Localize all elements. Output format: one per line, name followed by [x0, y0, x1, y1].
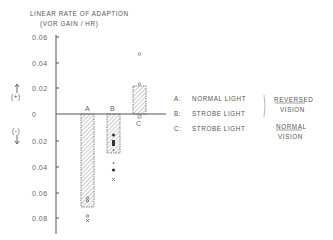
svg-text:0.08: 0.08	[32, 215, 48, 222]
legend-label-b: STROBE LIGHT	[192, 110, 245, 117]
svg-text:0.04: 0.04	[32, 164, 48, 171]
svg-text:0: 0	[32, 111, 36, 118]
group-reversed-line1: REVERSED	[274, 96, 313, 103]
legend-label-a: NORMAL LIGHT	[192, 95, 246, 102]
svg-text:C: C	[136, 120, 142, 127]
svg-text:B: B	[110, 105, 115, 112]
group-normal-line1: NORMAL	[276, 123, 307, 130]
legend-key-b: B:	[174, 110, 181, 117]
ytick-label: 0.06	[32, 34, 48, 41]
svg-text:A: A	[85, 105, 90, 112]
svg-text:0.04: 0.04	[32, 60, 48, 67]
svg-text:0.02: 0.02	[32, 85, 48, 92]
ylabel-negative: (-)	[12, 127, 20, 134]
legend-key-a: A:	[174, 95, 181, 102]
legend-key-c: C:	[174, 125, 182, 132]
svg-text:0.06: 0.06	[32, 190, 48, 197]
svg-text:0.02: 0.02	[32, 138, 48, 145]
ylabel-positive: (+)	[11, 93, 21, 100]
legend-label-c: STROBE LIGHT	[192, 125, 245, 132]
chart-plot: 0.06 0.04 0.02 0 0.02 0.04 0.06 0.08 A B…	[0, 0, 333, 240]
group-normal-line2: VISION	[278, 133, 303, 140]
group-reversed-line2: VISION	[280, 106, 305, 113]
